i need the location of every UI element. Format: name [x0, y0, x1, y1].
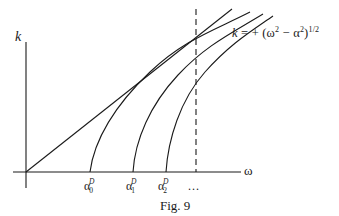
alpha-superscript: D — [89, 177, 94, 186]
cutoff-label-1: α1D — [126, 180, 136, 192]
formula-equals: = — [241, 26, 248, 40]
cutoff-label-0: α0D — [84, 180, 94, 192]
alpha-subscript: 0 — [89, 186, 93, 195]
formula-lhs: k — [232, 26, 238, 40]
figure-caption: Fig. 9 — [160, 199, 190, 212]
alpha-subscript: 1 — [131, 186, 135, 195]
omega-axis-label: ω — [244, 164, 253, 177]
dispersion-formula: k = + (ω2 − α2)1/2 — [232, 26, 319, 40]
k-axis-label: k — [15, 30, 21, 44]
dispersion-diagram: k ω k = + (ω2 − α2)1/2 α0D α1D α2D ... F… — [0, 0, 339, 216]
alpha-superscript: D — [163, 177, 168, 186]
formula-rhs-prefix: + (ω — [252, 26, 275, 40]
ellipsis: ... — [188, 180, 200, 192]
formula-exp3: 1/2 — [308, 25, 319, 34]
light-line — [26, 9, 232, 172]
alpha-subscript: 2 — [163, 186, 167, 195]
formula-rhs-mid: − α — [279, 26, 300, 40]
cutoff-label-2: α2D — [158, 180, 168, 192]
alpha-superscript: D — [131, 177, 136, 186]
